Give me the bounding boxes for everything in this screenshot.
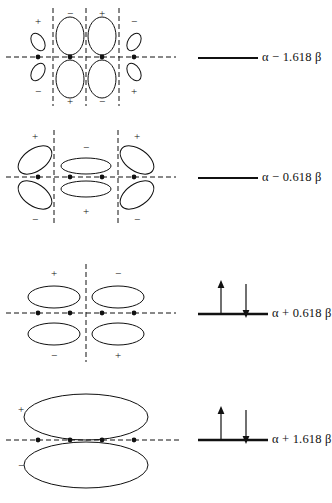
p-lobe-a1-bottom [28, 61, 48, 83]
p-lobe-right-top [92, 286, 144, 308]
p-lobe-a23-bottom [61, 181, 111, 197]
hmo-figure: + − + − − + − + α − 1.618 β [0, 0, 332, 503]
orbital-diagram-psi4: + − + − + − [0, 120, 190, 235]
p-lobe-a3-top [88, 17, 116, 55]
p-lobe-a1-top [28, 31, 48, 53]
mo-row-psi4: + − + − + − α − 0.618 β [0, 120, 332, 235]
orbital-diagram-psi1: + − [0, 378, 190, 503]
orbital-svg-psi2 [0, 258, 190, 368]
atom-dot-3 [100, 175, 105, 180]
lobe-sign-top-2: − [65, 8, 75, 19]
lobe-sign-top: + [16, 404, 26, 415]
orbital-svg-psi4 [0, 120, 190, 235]
p-lobe-a4-bottom [124, 61, 144, 83]
lobe-sign-top-3: + [97, 8, 107, 19]
lobe-sign-top-3: + [132, 131, 142, 142]
atom-dot-3 [100, 311, 105, 316]
p-lobe-right-bottom [92, 323, 144, 345]
atom-dot-4 [132, 55, 137, 60]
atom-dot-4 [132, 438, 137, 443]
p-lobe-delocalized-top [24, 394, 148, 440]
energy-level-psi4: α − 0.618 β [190, 120, 332, 235]
lobe-sign-top-2: − [81, 142, 91, 153]
atom-dot-4 [132, 311, 137, 316]
atom-dot-2 [68, 311, 73, 316]
electron-arrow-up [218, 280, 225, 314]
orbital-diagram-psi5: + − + − − + − + [0, 0, 190, 115]
atom-dot-2 [68, 55, 73, 60]
lobe-sign-bottom-2: + [81, 206, 91, 217]
energy-level-label-psi5: α − 1.618 β [262, 50, 322, 65]
lobe-sign-bottom-1: − [49, 350, 59, 361]
lobe-sign-top-1: + [33, 16, 43, 27]
mo-row-psi1: + − α + 1.618 β [0, 378, 332, 503]
p-lobe-a3-bottom [88, 60, 116, 98]
energy-level-psi5: α − 1.618 β [190, 0, 332, 115]
energy-level-psi2: α + 0.618 β [190, 258, 332, 368]
p-lobe-delocalized-bottom [24, 442, 148, 488]
lobe-sign-bottom-4: + [129, 86, 139, 97]
atom-dot-3 [100, 438, 105, 443]
p-lobe-a4-top [124, 31, 144, 53]
p-lobe-left-bottom [28, 323, 80, 345]
atom-dot-2 [68, 438, 73, 443]
p-lobe-a2-bottom [56, 60, 84, 98]
lobe-sign-top-1: + [49, 268, 59, 279]
lobe-sign-bottom-2: + [113, 350, 123, 361]
lobe-sign-top-2: − [113, 268, 123, 279]
atom-dot-3 [100, 55, 105, 60]
lobe-sign-bottom-3: − [132, 214, 142, 225]
lobe-sign-bottom-1: − [33, 86, 43, 97]
orbital-svg-psi5 [0, 0, 190, 115]
atom-dot-1 [36, 311, 41, 316]
atom-dot-1 [36, 55, 41, 60]
atom-dot-1 [36, 175, 41, 180]
p-lobe-a4-bottom [115, 175, 159, 215]
lobe-sign-top-4: − [129, 16, 139, 27]
lobe-sign-bottom-2: + [65, 96, 75, 107]
atom-dot-4 [132, 175, 137, 180]
orbital-svg-psi1 [0, 378, 190, 503]
mo-row-psi2: + − − + α + 0.618 β [0, 258, 332, 368]
energy-level-label-psi1: α + 1.618 β [272, 432, 332, 447]
lobe-sign-bottom-1: − [30, 214, 40, 225]
energy-level-label-psi4: α − 0.618 β [262, 170, 322, 185]
lobe-sign-bottom-3: − [97, 96, 107, 107]
atom-dot-1 [36, 438, 41, 443]
atom-dot-2 [68, 175, 73, 180]
electron-arrow-up [218, 406, 225, 440]
p-lobe-a23-top [61, 158, 111, 174]
energy-level-psi1: α + 1.618 β [190, 378, 332, 503]
p-lobe-left-top [28, 286, 80, 308]
p-lobe-a1-top [13, 140, 57, 180]
p-lobe-a4-top [115, 140, 159, 180]
p-lobe-a2-top [56, 17, 84, 55]
mo-row-psi5: + − + − − + − + α − 1.618 β [0, 0, 332, 115]
energy-level-label-psi2: α + 0.618 β [272, 306, 332, 321]
lobe-sign-bottom: − [16, 460, 26, 471]
p-lobe-a1-bottom [13, 175, 57, 215]
lobe-sign-top-1: + [30, 131, 40, 142]
orbital-diagram-psi2: + − − + [0, 258, 190, 368]
